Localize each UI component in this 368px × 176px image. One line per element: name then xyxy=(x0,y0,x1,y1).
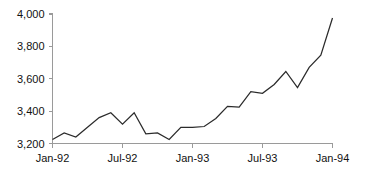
y-tick-label: 4,000 xyxy=(17,8,45,20)
y-tick-label: 3,800 xyxy=(17,40,45,52)
x-tick-label: Jul-93 xyxy=(248,152,278,164)
chart-background xyxy=(0,0,368,176)
chart-canvas: 3,2003,4003,6003,8004,000 Jan-92Jul-92Ja… xyxy=(0,0,368,176)
y-tick-label: 3,200 xyxy=(17,138,45,150)
x-tick-label: Jan-92 xyxy=(36,152,70,164)
x-tick-label: Jul-92 xyxy=(108,152,138,164)
x-tick-label: Jan-93 xyxy=(176,152,210,164)
line-chart-figure: 3,2003,4003,6003,8004,000 Jan-92Jul-92Ja… xyxy=(0,0,368,176)
x-tick-label: Jan-94 xyxy=(316,152,350,164)
y-tick-label: 3,600 xyxy=(17,73,45,85)
y-tick-label: 3,400 xyxy=(17,105,45,117)
